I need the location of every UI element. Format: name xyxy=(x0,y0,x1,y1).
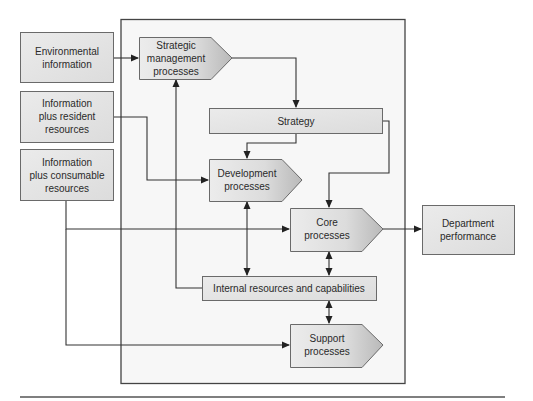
label-line: Strategy xyxy=(277,116,314,127)
input-environmental-information: Environmental information xyxy=(21,33,114,83)
label-line: processes xyxy=(153,66,199,77)
label-line: performance xyxy=(440,231,497,242)
label-line: Development xyxy=(218,168,277,179)
strategy-bar: Strategy xyxy=(210,109,383,134)
label-line: resources xyxy=(45,183,89,194)
output-department-performance: Department performance xyxy=(423,206,515,255)
label-line: processes xyxy=(304,346,350,357)
label-line: Support xyxy=(309,333,344,344)
internal-resources-and-capabilities-bar: Internal resources and capabilities xyxy=(203,277,377,301)
label-line: Core xyxy=(316,217,338,228)
department-process-diagram: Environmental information Information pl… xyxy=(0,0,533,401)
label-line: plus resident xyxy=(39,111,96,122)
input-information-plus-resident-resources: Information plus resident resources xyxy=(21,92,114,143)
label-line: management xyxy=(147,53,206,64)
label-line: resources xyxy=(45,124,89,135)
label-line: processes xyxy=(224,181,270,192)
label-line: Information xyxy=(42,157,92,168)
label-line: Strategic xyxy=(156,40,195,51)
label-line: processes xyxy=(304,230,350,241)
label-line: plus consumable xyxy=(29,170,104,181)
label-line: Environmental xyxy=(35,46,99,57)
label-line: Department xyxy=(442,218,494,229)
process-development: Development processes xyxy=(210,160,303,202)
label-line: information xyxy=(42,59,91,70)
input-information-plus-consumable-resources: Information plus consumable resources xyxy=(21,150,114,201)
label-line: Information xyxy=(42,98,92,109)
label-line: Internal resources and capabilities xyxy=(213,283,365,294)
